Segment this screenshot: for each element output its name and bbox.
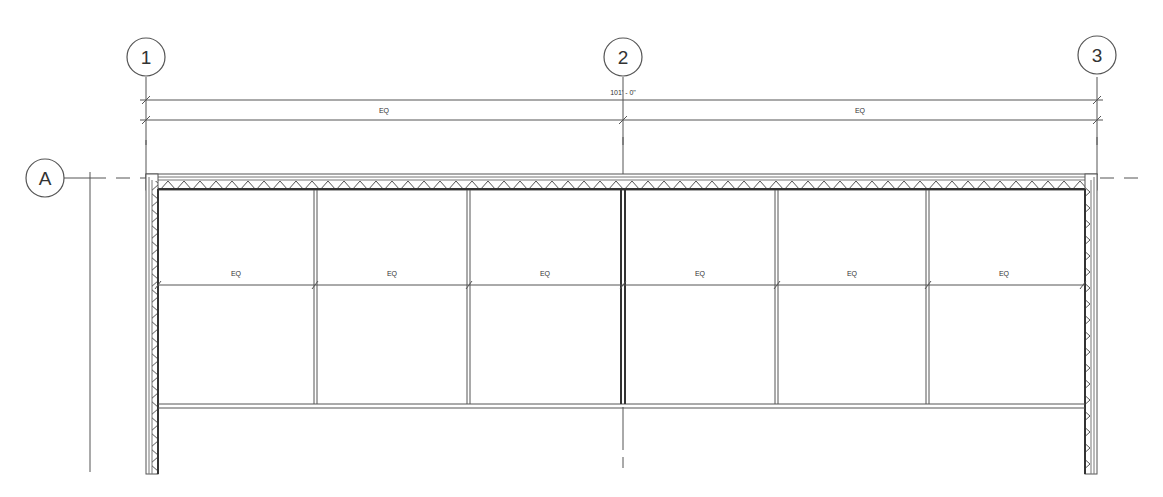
eq-label-panel-2: EQ	[387, 270, 398, 278]
grid-bubble-2-label: 2	[618, 47, 629, 68]
eq-label-panel-3: EQ	[540, 270, 551, 278]
mullion-5	[926, 190, 929, 404]
eq-label-panel-5: EQ	[847, 270, 858, 278]
grid-bubble-a: A	[26, 159, 64, 197]
overall-dimension-label: 101' - 0"	[610, 89, 636, 96]
grid-bubble-2: 2	[604, 38, 642, 76]
mullion-4	[775, 190, 778, 404]
eq-label-panel-6: EQ	[999, 270, 1010, 278]
eq-label-top-1: EQ	[379, 107, 390, 115]
grid-bubble-3-label: 3	[1092, 45, 1103, 66]
grid-bubble-1: 1	[127, 38, 165, 76]
grid-bubble-3: 3	[1078, 36, 1116, 74]
mullion-1	[314, 190, 317, 404]
curtain-panels	[158, 190, 1085, 408]
eq-label-top-2: EQ	[855, 107, 866, 115]
mullion-2	[467, 190, 470, 404]
eq-label-panel-1: EQ	[231, 270, 242, 278]
grid-bubble-1-label: 1	[141, 47, 152, 68]
eq-label-panel-4: EQ	[695, 270, 706, 278]
floor-plan-drawing: 1 2 3 A 101' - 0" EQ EQ	[0, 0, 1163, 497]
grid-bubble-a-label: A	[39, 168, 52, 189]
mullion-3	[621, 190, 625, 404]
grid-lines	[64, 77, 1140, 472]
overall-dimension: 101' - 0"	[140, 89, 1103, 104]
eq-dimension-top: EQ EQ	[140, 107, 1103, 124]
